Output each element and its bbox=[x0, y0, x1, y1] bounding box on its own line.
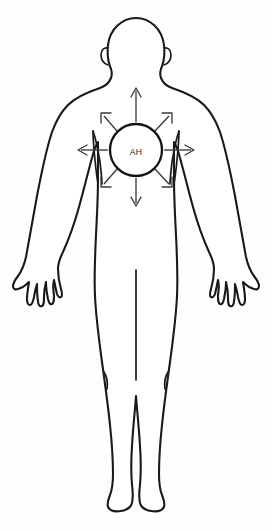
lesion-marker-label: AH bbox=[130, 147, 143, 157]
lesion-marker[interactable]: AH bbox=[110, 124, 162, 176]
body-diagram-svg: Anterior human body silhouette with cent… bbox=[0, 0, 272, 531]
body-diagram-canvas: Anterior human body silhouette with cent… bbox=[0, 0, 272, 531]
